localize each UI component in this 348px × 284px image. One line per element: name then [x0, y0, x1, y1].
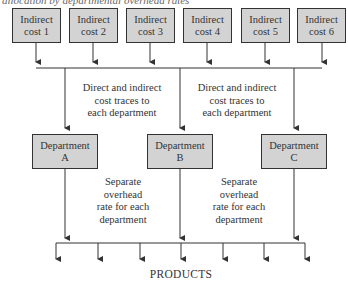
box-label: Indirect	[20, 14, 53, 26]
note-line: rate for each	[68, 201, 178, 214]
note-line: department	[68, 214, 178, 227]
note-line: each department	[67, 107, 177, 120]
trace-note-right: Direct and indirect cost traces to each …	[182, 82, 292, 120]
indirect-cost-4-box: Indirect cost 4	[183, 8, 232, 43]
box-label: Indirect	[134, 14, 167, 26]
indirect-cost-5-box: Indirect cost 5	[241, 8, 290, 43]
products-label: PRODUCTS	[131, 268, 231, 280]
box-label: B	[176, 152, 183, 164]
indirect-cost-6-box: Indirect cost 6	[297, 8, 346, 43]
box-label: Indirect	[191, 14, 224, 26]
box-label: cost 5	[253, 26, 278, 38]
box-label: Indirect	[249, 14, 282, 26]
rate-note-left: Separate overhead rate for each departme…	[68, 176, 178, 226]
department-b-box: Department B	[147, 134, 213, 169]
indirect-cost-2-box: Indirect cost 2	[69, 8, 118, 43]
box-label: cost 6	[309, 26, 334, 38]
indirect-cost-3-box: Indirect cost 3	[126, 8, 175, 43]
note-line: Direct and indirect	[182, 82, 292, 95]
note-line: cost traces to	[182, 95, 292, 108]
box-label: Department	[155, 140, 205, 152]
note-line: overhead	[68, 189, 178, 202]
box-label: Department	[269, 140, 319, 152]
department-a-box: Department A	[32, 134, 98, 169]
box-label: Indirect	[77, 14, 110, 26]
box-label: C	[290, 152, 297, 164]
note-line: department	[184, 214, 294, 227]
rate-note-right: Separate overhead rate for each departme…	[184, 176, 294, 226]
box-label: Department	[40, 140, 90, 152]
box-label: Indirect	[305, 14, 338, 26]
box-label: cost 4	[195, 26, 220, 38]
box-label: cost 1	[24, 26, 49, 38]
trace-note-left: Direct and indirect cost traces to each …	[67, 82, 177, 120]
note-line: Direct and indirect	[67, 82, 177, 95]
note-line: Separate	[68, 176, 178, 189]
note-line: cost traces to	[67, 95, 177, 108]
box-label: A	[61, 152, 69, 164]
department-c-box: Department C	[261, 134, 327, 169]
note-line: Separate	[184, 176, 294, 189]
box-label: cost 3	[138, 26, 163, 38]
indirect-cost-1-box: Indirect cost 1	[12, 8, 61, 43]
note-line: rate for each	[184, 201, 294, 214]
box-label: cost 2	[81, 26, 106, 38]
note-line: overhead	[184, 189, 294, 202]
note-line: each department	[182, 107, 292, 120]
